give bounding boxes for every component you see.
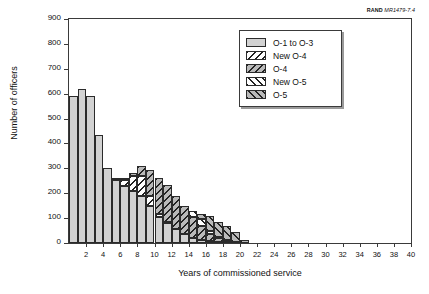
y-tick-label: 100 [48, 212, 61, 221]
bar-segment [189, 211, 198, 216]
x-tick-mark [394, 243, 395, 247]
bar-segment [206, 216, 215, 230]
legend-item-label: New O-4 [266, 51, 307, 61]
bar-segment [129, 191, 138, 243]
chart-bar [240, 240, 249, 243]
chart-bar [95, 135, 104, 243]
y-tick-label: 800 [48, 38, 61, 47]
legend-swatch-icon [246, 90, 266, 99]
chart-bar [163, 185, 172, 243]
y-tick-label: 500 [48, 113, 61, 122]
y-tick-mark [64, 119, 69, 120]
bar-segment [129, 176, 138, 190]
bar-segment [95, 135, 104, 243]
bar-segment [120, 180, 129, 186]
legend-item-1[interactable]: New O-4 [246, 49, 335, 62]
chart-bar [78, 89, 87, 243]
y-tick-mark [64, 44, 69, 45]
legend-item-label: New O-5 [266, 77, 307, 87]
chart-bar [197, 214, 206, 243]
bar-segment [197, 219, 206, 226]
y-tick-mark [64, 69, 69, 70]
x-tick-mark [411, 243, 412, 247]
x-tick-mark [240, 243, 241, 247]
credit-org: RAND [367, 7, 383, 13]
chart-bar [172, 196, 181, 243]
legend-item-2[interactable]: O-4 [246, 62, 335, 75]
y-tick-mark [64, 218, 69, 219]
x-tick-mark [206, 243, 207, 247]
bar-segment [155, 178, 164, 214]
x-tick-mark [343, 243, 344, 247]
chart-bar [180, 206, 189, 243]
y-tick-label: 0 [57, 237, 61, 246]
legend-swatch-icon [246, 77, 266, 86]
y-tick-label: 600 [48, 88, 61, 97]
bar-segment [240, 240, 249, 243]
chart-bar [69, 96, 78, 243]
x-tick-mark [155, 243, 156, 247]
y-tick-mark [64, 168, 69, 169]
bar-segment [86, 96, 95, 243]
bar-segment [137, 196, 146, 243]
bar-segment [137, 176, 146, 195]
bar-segment [155, 217, 164, 243]
y-tick-label: 900 [48, 13, 61, 22]
chart-bar [120, 178, 129, 243]
y-tick-mark [64, 243, 69, 244]
legend-swatch-icon [246, 64, 266, 73]
x-tick-mark [291, 243, 292, 247]
chart-bar [137, 166, 146, 243]
source-credit: RANDMR1479-7.4 [367, 8, 415, 13]
bar-segment [172, 229, 181, 243]
y-tick-mark [64, 94, 69, 95]
legend-item-4[interactable]: O-5 [246, 88, 335, 101]
x-tick-label: 40 [401, 250, 421, 259]
bar-segment [180, 234, 189, 243]
chart-legend: O-1 to O-3New O-4O-4New O-5O-5 [239, 30, 342, 107]
chart-bar [103, 168, 112, 243]
figure-root: RANDMR1479-7.4 Number of officers Years … [0, 0, 429, 294]
chart-bar [86, 96, 95, 243]
legend-item-label: O-1 to O-3 [266, 38, 313, 48]
bar-segment [112, 178, 121, 180]
bar-segment [180, 206, 189, 234]
chart-bar [129, 173, 138, 243]
bar-segment [129, 173, 138, 177]
y-tick-label: 700 [48, 63, 61, 72]
bar-segment [206, 241, 215, 243]
bar-segment [197, 240, 206, 243]
bar-segment [78, 89, 87, 243]
legend-swatch-icon [246, 51, 266, 60]
y-axis-title: Number of officers [9, 33, 19, 173]
legend-item-0[interactable]: O-1 to O-3 [246, 36, 335, 49]
bar-segment [231, 232, 240, 242]
x-tick-mark [86, 243, 87, 247]
x-tick-mark [189, 243, 190, 247]
legend-item-3[interactable]: New O-5 [246, 75, 335, 88]
bar-segment [163, 223, 172, 243]
bar-segment [197, 226, 206, 240]
bar-segment [197, 214, 206, 218]
legend-item-label: O-5 [266, 90, 287, 100]
bar-segment [146, 170, 155, 196]
y-tick-mark [64, 19, 69, 20]
bar-segment [214, 238, 223, 242]
chart-bar [223, 226, 232, 243]
x-tick-mark [137, 243, 138, 247]
chart-bar [214, 222, 223, 243]
bar-segment [103, 168, 112, 243]
bar-segment [137, 166, 146, 176]
x-tick-mark [257, 243, 258, 247]
x-tick-mark [103, 243, 104, 247]
x-tick-mark [172, 243, 173, 247]
y-tick-mark [64, 143, 69, 144]
x-tick-mark [326, 243, 327, 247]
legend-swatch-icon [246, 38, 266, 47]
y-tick-label: 400 [48, 137, 61, 146]
x-axis-title: Years of commissioned service [68, 268, 412, 278]
bar-segment [189, 217, 198, 238]
x-tick-mark [377, 243, 378, 247]
legend-item-label: O-4 [266, 64, 287, 74]
chart-bar [146, 170, 155, 243]
